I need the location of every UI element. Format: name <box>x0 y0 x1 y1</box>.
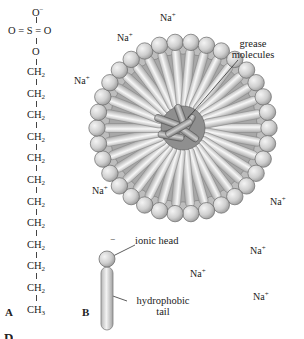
ionic-head <box>261 120 277 136</box>
sodium-ion-label: Na+ <box>117 30 133 43</box>
sodium-ion-label: Na+ <box>250 243 266 256</box>
ionic-head <box>90 136 106 152</box>
sodium-ion-label: Na+ <box>92 183 108 196</box>
ionic-head <box>151 203 167 219</box>
head-charge: − <box>110 234 115 245</box>
grease-molecules-label: grease molecules <box>218 38 288 60</box>
ionic-head <box>183 34 199 50</box>
hydrophobic-tail-shape <box>101 267 113 330</box>
ionic-head <box>151 37 167 53</box>
sodium-ion-label: Na+ <box>190 266 206 279</box>
ionic-head <box>213 197 229 213</box>
ionic-head <box>102 165 118 181</box>
ionic-head <box>255 151 271 167</box>
ionic-head <box>259 104 275 120</box>
ionic-head-shape <box>99 251 115 267</box>
micelle <box>89 34 277 222</box>
ionic-head <box>167 205 183 221</box>
ionic-head <box>95 151 111 167</box>
sodium-ion-label: Na+ <box>270 194 286 207</box>
sodium-ion-label: Na+ <box>253 289 269 302</box>
single-surfactant <box>99 251 115 330</box>
ionic-head <box>95 89 111 105</box>
sodium-ion-label: Na+ <box>160 10 176 23</box>
panel-label-b: B <box>82 306 89 318</box>
ionic-head <box>183 205 199 221</box>
ionic-head-label: ionic head <box>135 235 178 246</box>
ionic-head <box>137 43 153 59</box>
hydrophobic-tail-label: hydrophobic tail <box>129 295 197 317</box>
ionic-head <box>248 75 264 91</box>
ionic-head <box>198 203 214 219</box>
ionic-head <box>167 34 183 50</box>
figure-caption-partial: D <box>4 330 13 339</box>
ionic-head <box>255 89 271 105</box>
ionic-head <box>259 136 275 152</box>
ionic-head <box>89 120 105 136</box>
ionic-head <box>90 104 106 120</box>
sodium-ion-label: Na+ <box>74 73 90 86</box>
ionic-head <box>198 37 214 53</box>
